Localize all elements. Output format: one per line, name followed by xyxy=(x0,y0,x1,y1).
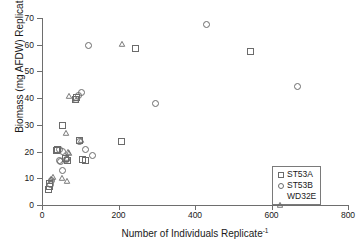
data-point-st53a xyxy=(82,157,89,164)
data-point-wd32e xyxy=(63,93,69,98)
legend-label: ST53A xyxy=(287,170,313,179)
y-tick-label: 40 xyxy=(0,94,34,103)
data-point-st53b xyxy=(59,167,66,174)
x-tick-label: 400 xyxy=(175,211,215,220)
data-point-wd32e xyxy=(47,174,53,179)
y-tick-label: 0 xyxy=(0,201,34,210)
data-point-st53b xyxy=(85,42,92,49)
data-point-st53a xyxy=(247,48,254,55)
data-point-st53b xyxy=(152,100,159,107)
data-point-wd32e xyxy=(75,137,81,142)
scatter-chart: Biomass (mg AFDW) Replicate-1 0102030405… xyxy=(0,0,360,244)
legend-item-st53b[interactable]: ST53B xyxy=(276,180,316,191)
y-tick-label: 70 xyxy=(0,14,34,23)
data-point-st53a xyxy=(118,138,125,145)
legend-item-wd32e[interactable]: WD32E xyxy=(276,191,316,202)
legend-label: WD32E xyxy=(287,192,316,201)
data-point-wd32e xyxy=(61,178,67,183)
x-tick-label: 200 xyxy=(99,211,139,220)
y-tick-label: 20 xyxy=(0,148,34,157)
legend: ST53AST53BWD32E xyxy=(272,166,321,205)
y-tick-label: 10 xyxy=(0,174,34,183)
data-point-st53a xyxy=(132,45,139,52)
data-point-wd32e xyxy=(70,97,76,102)
x-tick-label: 600 xyxy=(252,211,292,220)
x-axis-title-text: Number of Individuals Replicate xyxy=(122,228,263,239)
data-point-wd32e xyxy=(61,155,67,160)
y-tick-label: 30 xyxy=(0,121,34,130)
x-tick-label: 0 xyxy=(22,211,62,220)
x-tick-label: 800 xyxy=(328,211,360,220)
chart-title xyxy=(60,0,300,3)
data-point-wd32e xyxy=(116,41,122,46)
y-tick-label: 60 xyxy=(0,41,34,50)
square-marker-icon xyxy=(276,170,285,179)
triangle-marker-icon xyxy=(276,192,285,201)
circle-marker-icon xyxy=(276,181,285,190)
x-axis-title-superscript: -1 xyxy=(263,227,269,234)
legend-item-st53a[interactable]: ST53A xyxy=(276,169,316,180)
y-tick-label: 50 xyxy=(0,67,34,76)
data-point-st53b xyxy=(203,21,210,28)
x-axis-title: Number of Individuals Replicate-1 xyxy=(42,225,348,239)
data-point-st53a xyxy=(59,122,66,129)
legend-label: ST53B xyxy=(287,181,313,190)
data-point-wd32e xyxy=(60,130,66,135)
